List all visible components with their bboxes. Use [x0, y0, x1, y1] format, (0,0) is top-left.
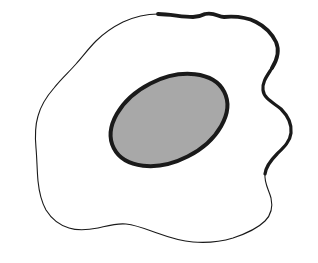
illustration-canvas — [0, 0, 318, 263]
fried-egg-figure — [0, 0, 318, 263]
